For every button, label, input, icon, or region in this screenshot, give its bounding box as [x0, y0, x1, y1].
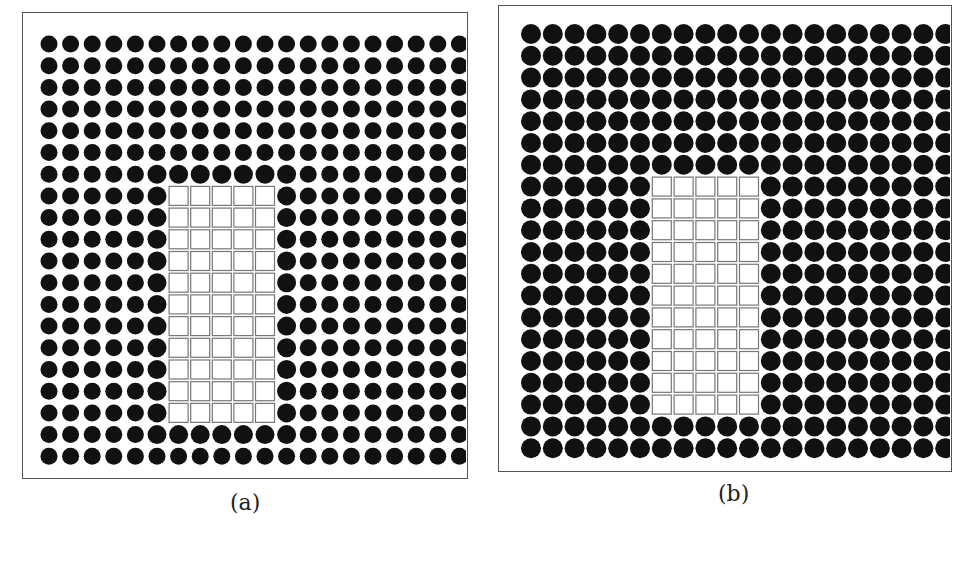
dot [41, 361, 58, 378]
dot [521, 68, 541, 88]
dot [191, 425, 210, 444]
dot [429, 448, 446, 465]
dot [235, 122, 252, 139]
square-cell [696, 264, 715, 283]
dot [870, 177, 890, 197]
dot [84, 361, 101, 378]
dot [277, 338, 296, 357]
dot [848, 220, 868, 240]
dot [783, 416, 803, 436]
dot [543, 351, 563, 371]
dot [386, 448, 403, 465]
dot [630, 307, 650, 327]
dot [913, 155, 933, 175]
dot [565, 286, 585, 306]
dot [783, 133, 803, 153]
dot [62, 361, 79, 378]
dot [300, 36, 317, 53]
dot [608, 264, 628, 284]
dot [913, 373, 933, 393]
dot [804, 24, 824, 44]
square-cell [169, 273, 188, 292]
dot [105, 209, 122, 226]
square-cell [740, 395, 759, 414]
dot [386, 426, 403, 443]
dot [192, 122, 209, 139]
square-cell [740, 243, 759, 262]
dot [235, 144, 252, 161]
dot [321, 144, 338, 161]
square-cell [234, 208, 253, 227]
dot [408, 122, 425, 139]
dot [913, 438, 933, 458]
dot [783, 395, 803, 415]
dot [408, 187, 425, 204]
dot [170, 36, 187, 53]
square-cell [169, 186, 188, 205]
dot [149, 79, 166, 96]
dot [408, 231, 425, 248]
dot [321, 361, 338, 378]
square-cell [191, 317, 210, 336]
square-cell [674, 177, 693, 196]
dot [105, 296, 122, 313]
dot [278, 122, 295, 139]
square-cell [674, 308, 693, 327]
square-cell [718, 308, 737, 327]
square-cell [740, 330, 759, 349]
dot [804, 438, 824, 458]
square-cell [718, 286, 737, 305]
dot [365, 404, 382, 421]
dot [543, 68, 563, 88]
dot [761, 438, 781, 458]
dot [321, 122, 338, 139]
dot [543, 133, 563, 153]
dot [386, 57, 403, 74]
dot [84, 122, 101, 139]
dot [257, 57, 274, 74]
dot [277, 360, 296, 379]
dot [127, 144, 144, 161]
dot [41, 187, 58, 204]
dot [761, 220, 781, 240]
dot [586, 89, 606, 109]
dot [892, 155, 912, 175]
dot [892, 68, 912, 88]
dot [761, 177, 781, 197]
dot [935, 307, 950, 327]
dot [543, 155, 563, 175]
dot [608, 220, 628, 240]
dot [170, 448, 187, 465]
dot [84, 253, 101, 270]
dot [870, 46, 890, 66]
dot [127, 448, 144, 465]
dot [848, 395, 868, 415]
dot [127, 79, 144, 96]
dot [848, 373, 868, 393]
dot [521, 264, 541, 284]
dot [674, 89, 694, 109]
dot [343, 57, 360, 74]
dot [41, 144, 58, 161]
dot [739, 24, 759, 44]
dot [521, 329, 541, 349]
dot [343, 209, 360, 226]
square-cell [212, 403, 231, 422]
dot [848, 68, 868, 88]
panel-b-dot-grid [498, 5, 952, 472]
dot [892, 373, 912, 393]
dot [630, 68, 650, 88]
dot [652, 133, 672, 153]
dot [804, 286, 824, 306]
dot [408, 209, 425, 226]
square-cell [256, 403, 275, 422]
square-cell [169, 252, 188, 271]
dot [257, 36, 274, 53]
square-cell [674, 373, 693, 392]
dot [565, 68, 585, 88]
dot [826, 307, 846, 327]
square-cell [169, 382, 188, 401]
dot [935, 264, 950, 284]
dot [451, 79, 466, 96]
dot [386, 274, 403, 291]
